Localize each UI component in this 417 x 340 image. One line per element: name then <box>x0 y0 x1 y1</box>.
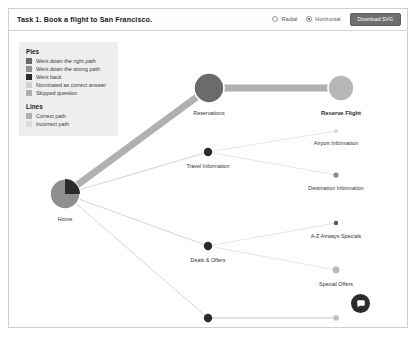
node-label-reserve-flight: Reserve Flight <box>321 110 361 116</box>
legend-pie-label: Went down the wrong path <box>36 66 100 72</box>
legend-line-swatch-icon <box>26 121 32 127</box>
legend-pie-swatch-icon <box>26 90 32 96</box>
legend-pie-swatch-icon <box>26 66 32 72</box>
node-label-dest-info: Destination Information <box>308 185 363 191</box>
node-circle <box>204 314 212 322</box>
node-circle <box>333 315 339 321</box>
header-bar: Task 1. Book a flight to San Francisco. … <box>9 9 407 31</box>
legend-line-label: Correct path <box>36 113 66 119</box>
chat-fab-button[interactable] <box>351 294 370 313</box>
graph-node-travel-info[interactable] <box>204 148 212 156</box>
legend-line-item: Incorrect path <box>26 121 111 127</box>
layout-option-radial-label: Radial <box>281 16 297 22</box>
legend-pie-label: Nominated as correct answer <box>36 82 106 88</box>
node-circle <box>333 267 340 274</box>
legend-pie-label: Went down the right path <box>36 58 96 64</box>
node-circle <box>333 172 338 177</box>
node-label-reservations: Reservations <box>193 110 224 116</box>
node-label-az-specials: A-Z Airways Specials <box>311 233 362 239</box>
legend-pie-label: Went back <box>36 74 61 80</box>
legend-pie-item: Went back <box>26 74 111 80</box>
graph-edge <box>65 152 208 194</box>
graph-node-products[interactable] <box>204 314 212 322</box>
legend-line-item: Correct path <box>26 113 111 119</box>
legend-pie-item: Nominated as correct answer <box>26 82 111 88</box>
chat-icon <box>356 299 366 309</box>
legend-pie-item: Went down the wrong path <box>26 66 111 72</box>
graph-edge <box>65 194 208 246</box>
legend-pie-label: Skipped question <box>36 90 77 96</box>
node-label-home: Home <box>58 216 72 222</box>
graph-node-special-offers[interactable] <box>333 267 340 274</box>
graph-node-az-specials[interactable] <box>334 221 338 225</box>
legend-lines-list: Correct pathIncorrect path <box>26 113 111 127</box>
graph-edge <box>208 246 336 270</box>
graph-node-deals-offers[interactable] <box>204 242 212 250</box>
header-controls: Radial Horizontal Download SVG <box>272 13 401 26</box>
legend-pie-item: Went down the right path <box>26 58 111 64</box>
graph-node-reservations[interactable] <box>194 73 224 103</box>
legend-pies-list: Went down the right pathWent down the wr… <box>26 58 111 96</box>
node-circle <box>194 73 224 103</box>
node-label-travel-info: Travel Information <box>186 163 229 169</box>
legend-pie-swatch-icon <box>26 82 32 88</box>
graph-node-airport-info[interactable] <box>334 129 338 133</box>
download-svg-button[interactable]: Download SVG <box>350 13 401 26</box>
node-circle <box>334 221 338 225</box>
legend-pies-title: Pies <box>26 48 111 55</box>
radio-radial-icon[interactable] <box>272 16 278 22</box>
node-circle <box>204 148 212 156</box>
radio-horizontal-icon[interactable] <box>306 16 312 22</box>
legend-panel: Pies Went down the right pathWent down t… <box>19 42 118 136</box>
node-label-deals-offers: Deals & Offers <box>191 257 226 263</box>
legend-line-label: Incorrect path <box>36 121 69 127</box>
layout-option-radial[interactable]: Radial <box>272 16 297 22</box>
graph-node-dest-info[interactable] <box>333 172 338 177</box>
graph-edge <box>65 194 208 318</box>
graph-node-travel-products[interactable] <box>333 315 339 321</box>
node-label-airport-info: Airport Information <box>314 140 358 146</box>
node-circle <box>334 129 338 133</box>
page-title: Task 1. Book a flight to San Francisco. <box>17 15 152 24</box>
layout-option-horizontal[interactable]: Horizontal <box>306 16 340 22</box>
legend-pie-item: Skipped question <box>26 90 111 96</box>
graph-node-home[interactable] <box>50 179 80 209</box>
node-label-special-offers: Special Offers <box>319 281 353 287</box>
node-circle <box>328 75 354 101</box>
graph-node-reserve-flight[interactable] <box>328 75 354 101</box>
legend-line-swatch-icon <box>26 113 32 119</box>
legend-pie-swatch-icon <box>26 58 32 64</box>
layout-option-horizontal-label: Horizontal <box>315 16 340 22</box>
legend-lines-title: Lines <box>26 103 111 110</box>
node-circle <box>204 242 212 250</box>
visualization-window: Task 1. Book a flight to San Francisco. … <box>8 8 408 328</box>
legend-pie-swatch-icon <box>26 74 32 80</box>
